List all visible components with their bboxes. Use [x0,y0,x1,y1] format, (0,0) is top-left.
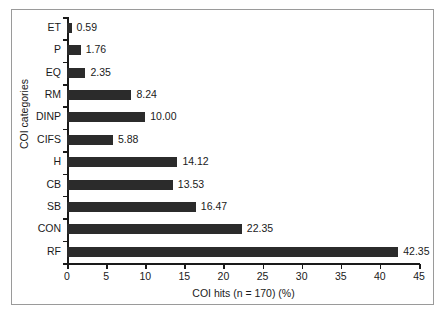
y-tick-label-rm: RM [23,88,61,100]
plot-area: 0.59ET1.76P2.35EQ8.24RM10.00DINP5.88CIFS… [67,17,419,263]
y-tick-label-sb: SB [23,200,61,212]
x-axis-tick [106,264,108,269]
bar-p[interactable] [67,45,81,55]
y-axis-tick [63,62,68,64]
bar-value-label: 0.59 [77,21,97,33]
x-tick-label-25: 25 [248,270,278,282]
bar-row: 13.53CB [67,174,419,196]
bar-eq[interactable] [67,68,85,78]
x-axis-tick [67,264,69,269]
y-axis-tick [63,84,68,86]
x-axis-tick [263,264,265,269]
x-axis-title: COI hits (n = 170) (%) [67,287,420,299]
bar-row: 1.76P [67,39,419,61]
y-axis-tick [63,241,68,243]
bar-rf[interactable] [67,247,398,257]
bar-value-label: 16.47 [201,200,227,212]
bar-row: 0.59ET [67,17,419,39]
x-axis-tick [341,264,343,269]
bar-rm[interactable] [67,90,131,100]
bar-value-label: 22.35 [247,222,273,234]
x-tick-label-5: 5 [91,270,121,282]
y-tick-label-con: CON [23,222,61,234]
bar-dinp[interactable] [67,112,145,122]
y-axis-tick [63,151,68,153]
x-tick-label-45: 45 [404,270,434,282]
x-tick-label-20: 20 [208,270,238,282]
y-axis-tick [63,174,68,176]
bar-et[interactable] [67,23,72,33]
bar-value-label: 5.88 [118,133,138,145]
y-axis-tick [63,218,68,220]
bar-value-label: 10.00 [150,110,176,122]
x-axis-spine [67,263,420,265]
bar-h[interactable] [67,157,177,167]
x-tick-label-40: 40 [365,270,395,282]
y-tick-label-cb: CB [23,178,61,190]
x-axis-tick [419,264,421,269]
bar-value-label: 1.76 [86,43,106,55]
bar-row: 42.35RF [67,241,419,263]
bar-sb[interactable] [67,202,196,212]
x-tick-label-15: 15 [169,270,199,282]
bar-value-label: 2.35 [90,66,110,78]
bar-row: 5.88CIFS [67,129,419,151]
y-tick-label-h: H [23,155,61,167]
y-axis-tick [63,129,68,131]
bar-row: 22.35CON [67,218,419,240]
bar-row: 14.12H [67,151,419,173]
y-axis-tick [63,17,68,19]
x-tick-label-30: 30 [287,270,317,282]
y-tick-label-rf: RF [23,245,61,257]
bar-row: 16.47SB [67,196,419,218]
x-tick-label-35: 35 [326,270,356,282]
x-tick-label-10: 10 [130,270,160,282]
bar-row: 10.00DINP [67,106,419,128]
x-tick-label-0: 0 [52,270,82,282]
x-axis-tick [184,264,186,269]
x-axis-tick [302,264,304,269]
y-axis-tick [63,196,68,198]
y-tick-label-p: P [23,43,61,55]
bar-row: 2.35EQ [67,62,419,84]
y-tick-label-cifs: CIFS [23,133,61,145]
y-axis-tick [63,39,68,41]
bar-row: 8.24RM [67,84,419,106]
x-axis-tick [380,264,382,269]
bar-value-label: 8.24 [136,88,156,100]
y-tick-label-et: ET [23,21,61,33]
bar-value-label: 13.53 [178,178,204,190]
x-axis-tick [223,264,225,269]
x-axis-tick [145,264,147,269]
y-axis-tick [63,106,68,108]
bar-cb[interactable] [67,180,173,190]
y-tick-label-dinp: DINP [23,110,61,122]
bar-value-label: 42.35 [403,245,429,257]
y-tick-label-eq: EQ [23,66,61,78]
bar-con[interactable] [67,224,242,234]
bar-value-label: 14.12 [182,155,208,167]
bar-cifs[interactable] [67,135,113,145]
figure: COI categories 0.59ET1.76P2.35EQ8.24RM10… [0,0,444,314]
